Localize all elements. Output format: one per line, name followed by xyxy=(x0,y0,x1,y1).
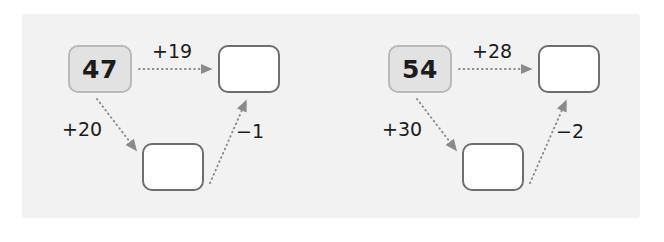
arrow-down-to-middle xyxy=(97,99,136,150)
start-value-box: 47 xyxy=(68,45,132,93)
intermediate-answer-box[interactable] xyxy=(462,143,524,191)
worksheet-canvas: 47 +19 +20 −1 54 xyxy=(0,0,664,242)
label-down-operation: +20 xyxy=(62,118,102,140)
label-down-operation: +30 xyxy=(382,118,422,140)
result-answer-box[interactable] xyxy=(538,45,600,93)
label-direct-operation: +28 xyxy=(472,40,512,62)
result-answer-box[interactable] xyxy=(218,45,280,93)
label-direct-operation: +19 xyxy=(152,40,192,62)
label-up-operation: −1 xyxy=(236,120,264,142)
intermediate-answer-box[interactable] xyxy=(142,143,204,191)
arrow-up-to-result xyxy=(530,101,566,183)
label-up-operation: −2 xyxy=(556,120,584,142)
arrow-up-to-result xyxy=(210,101,246,183)
bridging-diagram-right: 54 +28 +30 −2 xyxy=(360,0,660,242)
start-value-box: 54 xyxy=(388,45,452,93)
arrow-down-to-middle xyxy=(417,99,456,150)
bridging-diagram-left: 47 +19 +20 −1 xyxy=(40,0,340,242)
